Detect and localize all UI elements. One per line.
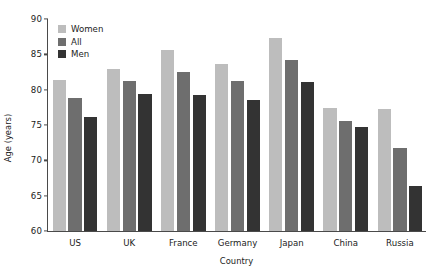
legend-label: Women	[71, 24, 103, 34]
y-axis-title: Age (years)	[3, 113, 13, 161]
x-tick-label: Japan	[280, 238, 304, 248]
x-tick-label: Germany	[218, 238, 258, 248]
x-axis-title: Country	[47, 256, 426, 266]
legend-swatch-icon	[58, 38, 66, 46]
legend-item-men: Men	[58, 49, 103, 59]
chart-legend: WomenAllMen	[58, 24, 103, 59]
x-tick-label: Russia	[386, 238, 414, 248]
legend-label: All	[71, 37, 82, 47]
legend-swatch-icon	[58, 25, 66, 33]
plot-area: 60657075808590 USUKFranceGermanyJapanChi…	[47, 19, 426, 232]
x-tick-label: UK	[123, 238, 135, 248]
x-tick-label: China	[334, 238, 359, 248]
x-axis-ticks: USUKFranceGermanyJapanChinaRussia	[48, 19, 426, 231]
x-tick-label: France	[169, 238, 198, 248]
legend-swatch-icon	[58, 50, 66, 58]
legend-label: Men	[71, 49, 89, 59]
bar-chart: Age (years) 60657075808590 USUKFranceGer…	[0, 0, 440, 275]
x-tick-label: US	[69, 238, 81, 248]
legend-item-women: Women	[58, 24, 103, 34]
legend-item-all: All	[58, 37, 103, 47]
